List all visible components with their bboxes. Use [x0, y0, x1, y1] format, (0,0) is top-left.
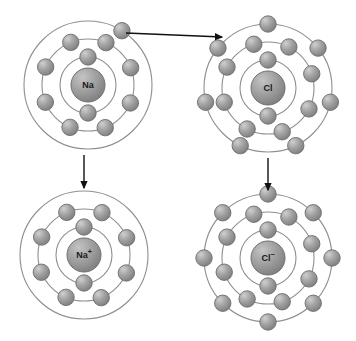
chlorine-atom-electron — [260, 108, 276, 124]
chlorine-atom-electron — [322, 94, 338, 110]
chlorine-atom-electron — [219, 59, 235, 75]
chlorine-atom-electron — [274, 124, 290, 140]
chloride-ion-electron — [301, 271, 317, 287]
electron-transfer-arrow — [126, 33, 222, 37]
sodium-ion-charge: + — [88, 248, 92, 255]
chlorine-atom-electron — [260, 16, 276, 32]
atoms-layer: NaClNa+Cl− — [20, 16, 340, 330]
chlorine-atom-electron — [239, 121, 255, 137]
chloride-ion-electron — [219, 229, 235, 245]
chloride-ion-charge: − — [270, 251, 274, 258]
sodium-ion-electron — [59, 204, 75, 220]
sodium-atom-electron — [37, 94, 53, 110]
chlorine-atom-electron — [304, 66, 320, 82]
chlorine-atom-electron — [210, 40, 226, 56]
chlorine-atom-electron — [288, 137, 304, 153]
sodium-atom-electron — [37, 59, 53, 75]
sodium-ion-electron — [94, 204, 110, 220]
chloride-ion-electron — [239, 291, 255, 307]
sodium-atom-electron — [122, 60, 138, 76]
chloride-ion-electron — [305, 295, 321, 311]
sodium-atom-electron — [97, 119, 113, 135]
chlorine-atom-electron — [281, 39, 297, 55]
chlorine-atom-electron — [301, 101, 317, 117]
chloride-ion-electron — [216, 264, 232, 280]
chlorine-atom-electron — [216, 94, 232, 110]
chloride-ion-electron — [274, 294, 290, 310]
chlorine-atom-electron — [310, 40, 326, 56]
sodium-atom-electron — [98, 34, 114, 50]
chlorine-atom-electron — [232, 137, 248, 153]
chloride-ion-electron — [305, 205, 321, 221]
chloride-ion-electron — [246, 206, 262, 222]
chloride-ion-electron — [215, 205, 231, 221]
sodium-ion-electron — [33, 229, 49, 245]
sodium-atom-label: Na — [82, 80, 94, 90]
chloride-ion: Cl− — [196, 186, 340, 330]
chloride-ion-electron — [260, 222, 276, 238]
chloride-ion-electron — [260, 278, 276, 294]
arrows-layer — [84, 33, 268, 190]
sodium-atom-electron — [80, 49, 96, 65]
chloride-ion-electron — [196, 250, 212, 266]
sodium-ion: Na+ — [20, 191, 148, 319]
chloride-ion-electron — [260, 314, 276, 330]
chloride-ion-electron — [324, 250, 340, 266]
sodium-atom-electron — [62, 119, 78, 135]
chloride-ion-electron — [304, 236, 320, 252]
chlorine-atom-label: Cl — [264, 83, 273, 93]
ionic-bonding-diagram: NaClNa+Cl− — [0, 0, 356, 341]
sodium-atom-electron — [114, 23, 130, 39]
chlorine-atom-electron — [260, 52, 276, 68]
chlorine-atom-electron — [197, 94, 213, 110]
sodium-ion-electron — [33, 264, 49, 280]
sodium-atom-electron — [122, 95, 138, 111]
sodium-ion-electron — [76, 275, 92, 291]
sodium-ion-electron — [118, 230, 134, 246]
sodium-ion-electron — [76, 219, 92, 235]
chlorine-atom-electron — [246, 36, 262, 52]
chloride-ion-electron — [215, 295, 231, 311]
chloride-ion-electron — [281, 209, 297, 225]
sodium-ion-electron — [118, 265, 134, 281]
sodium-atom: Na — [24, 21, 152, 149]
sodium-ion-electron — [93, 289, 109, 305]
sodium-ion-electron — [58, 289, 74, 305]
sodium-atom-electron — [80, 105, 96, 121]
sodium-atom-electron — [63, 34, 79, 50]
